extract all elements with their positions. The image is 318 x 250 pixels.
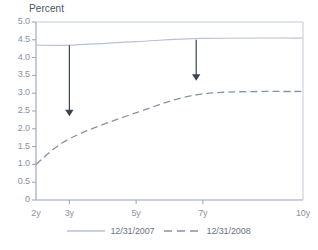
y-tick-label: 3.0 [2,87,30,97]
y-tick-label: 5.0 [2,16,30,26]
legend-item-2008: 12/31/2008 [164,226,251,236]
y-tick-label: 4.0 [2,52,30,62]
line-series-12-31-2007 [36,38,303,45]
y-tick-label: 3.5 [2,69,30,79]
y-axis-ticks [32,22,36,200]
y-tick-label: 0 [2,194,30,204]
line-series-12-31-2008 [36,91,303,164]
x-tick-label: 5y [121,208,151,218]
annotation-arrows [65,40,200,117]
chart-legend: 12/31/2007 12/31/2008 [0,226,318,236]
x-tick-label: 2y [21,208,51,218]
legend-item-2007: 12/31/2007 [67,226,154,236]
y-tick-label: 2.0 [2,123,30,133]
x-tick-label: 7y [188,208,218,218]
x-axis-ticks [69,200,203,204]
legend-swatch-dashed [164,227,202,235]
arrow-at-3y-head [65,110,73,117]
y-tick-label: 1.0 [2,158,30,168]
legend-swatch-solid [67,227,105,235]
legend-label-2008: 12/31/2008 [207,226,251,236]
arrow-at-6.8y-head [192,74,200,81]
legend-label-2007: 12/31/2007 [110,226,154,236]
y-tick-label: 0.5 [2,176,30,186]
x-tick-label: 3y [54,208,84,218]
chart-container: Percent 5.04.54.03.53.02.52.01.51.00.50 … [0,0,318,250]
y-tick-label: 4.5 [2,34,30,44]
x-tick-label: 10y [288,208,318,218]
y-tick-label: 2.5 [2,105,30,115]
y-tick-label: 1.5 [2,141,30,151]
